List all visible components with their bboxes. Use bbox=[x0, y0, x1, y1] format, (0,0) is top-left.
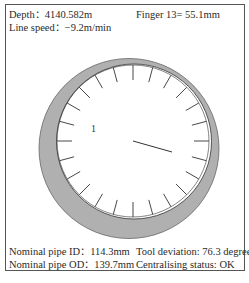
nominal-od-readout: Nominal pipe OD：139.7mm bbox=[9, 259, 134, 271]
centralising-status-readout: Centralising status: OK bbox=[136, 259, 235, 271]
tool-deviation-readout: Tool deviation: 76.3 degrees bbox=[136, 246, 249, 258]
pipe-cross-section-diagram: 1 bbox=[0, 0, 249, 283]
finger-1-label: 1 bbox=[91, 123, 96, 134]
nominal-id-readout: Nominal pipe ID：114.3mm bbox=[9, 246, 130, 258]
